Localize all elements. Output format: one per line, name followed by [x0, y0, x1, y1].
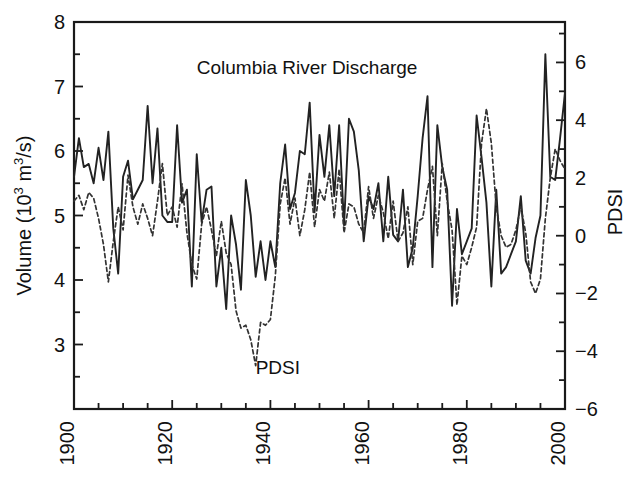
x-tick-label: 1960 [351, 421, 373, 466]
y-tick-label-right: −4 [575, 340, 598, 362]
y-axis-title-left: Volume (103 m3/s) [11, 135, 35, 295]
x-tick-label: 1900 [56, 421, 78, 466]
y-tick-label-left: 3 [54, 334, 65, 356]
y-tick-label-right: 0 [575, 225, 586, 247]
discharge-series-line [74, 54, 565, 309]
y-tick-label-right: −2 [575, 282, 598, 304]
x-tick-label: 1920 [154, 421, 176, 466]
svg-text:Volume (103 m3/s): Volume (103 m3/s) [11, 135, 35, 295]
y-tick-label-right: 2 [575, 167, 586, 189]
chart-title-annotation: Columbia River Discharge [197, 57, 418, 78]
y-tick-label-right: −6 [575, 398, 598, 420]
x-tick-label: 2000 [547, 421, 569, 466]
chart-figure: 1900192019401960198020008765436420−2−4−6… [0, 0, 639, 479]
x-tick-label: 1980 [449, 421, 471, 466]
x-tick-label: 1940 [252, 421, 274, 466]
y-tick-label-left: 5 [54, 205, 65, 227]
y-tick-label-left: 4 [54, 269, 65, 291]
y-tick-label-left: 6 [54, 140, 65, 162]
y-tick-label-right: 4 [575, 109, 586, 131]
y-tick-label-left: 8 [54, 11, 65, 33]
y-axis-title-right: PDSI [604, 189, 626, 236]
chart-svg: 1900192019401960198020008765436420−2−4−6… [0, 0, 639, 479]
plot-frame [74, 22, 565, 409]
y-tick-label-left: 7 [54, 76, 65, 98]
y-tick-label-right: 6 [575, 51, 586, 73]
pdsi-annotation: PDSI [256, 357, 300, 378]
